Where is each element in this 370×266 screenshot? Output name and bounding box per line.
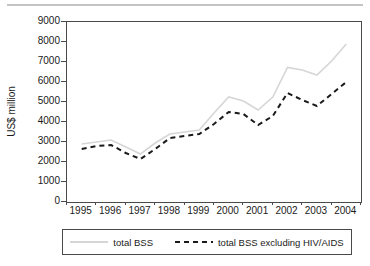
y-axis-title: US$ million	[6, 82, 19, 142]
y-tick-label: 8000	[22, 35, 60, 47]
top-rule	[7, 4, 363, 6]
solid-line-swatch	[70, 241, 108, 243]
series-lines-svg	[67, 22, 361, 202]
dashed-line-swatch	[175, 241, 213, 243]
chart-figure: US$ million 9000800070006000500040003000…	[0, 0, 370, 266]
legend: total BSS total BSS excluding HIV/AIDS	[62, 229, 352, 255]
series-line-total-bss	[82, 44, 347, 154]
y-tick-label: 0	[22, 195, 60, 207]
y-tick-label: 5000	[22, 95, 60, 107]
legend-item-total-bss-excluding-hiv-aids: total BSS excluding HIV/AIDS	[175, 237, 344, 248]
series-line-total-bss-excluding-hiv-aids	[82, 82, 347, 159]
legend-label: total BSS	[113, 237, 153, 248]
y-tick-label: 3000	[22, 135, 60, 147]
y-tick-label: 9000	[22, 15, 60, 27]
plot-area	[66, 21, 362, 203]
y-tick-label: 7000	[22, 55, 60, 67]
legend-label: total BSS excluding HIV/AIDS	[218, 237, 344, 248]
legend-item-total-bss: total BSS	[70, 237, 153, 248]
y-tick-label: 4000	[22, 115, 60, 127]
y-tick-label: 1000	[22, 175, 60, 187]
y-tick-label: 2000	[22, 155, 60, 167]
x-tick-label: 2004	[328, 205, 362, 217]
y-tick-label: 6000	[22, 75, 60, 87]
